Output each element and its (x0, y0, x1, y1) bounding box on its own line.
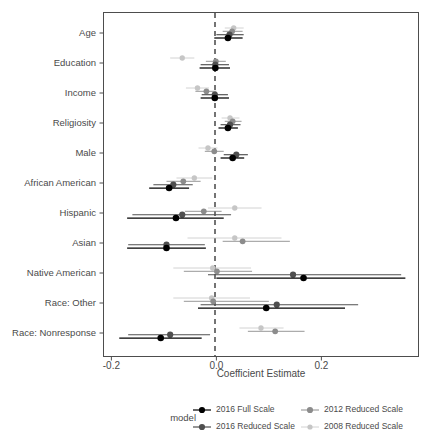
legend-item-label: 2016 Full Scale (216, 404, 275, 414)
legend-key-dot (199, 407, 205, 413)
y-axis-label: Asian (72, 237, 96, 248)
y-axis-label: Education (54, 57, 96, 68)
y-axis-category-labels: AgeEducationIncomeReligiosityMaleAfrican… (12, 27, 96, 338)
y-axis-label: Native American (27, 267, 96, 278)
y-axis-label: Male (75, 147, 96, 158)
estimate-point (214, 268, 220, 274)
estimate-point (167, 332, 173, 338)
x-axis-title: Coefficient Estimate (217, 368, 306, 379)
legend-key-dot (307, 424, 312, 429)
y-axis-label: African American (24, 177, 96, 188)
estimate-point (173, 215, 180, 222)
estimate-point (232, 205, 237, 210)
estimate-point (204, 88, 210, 94)
legend-item-label: 2012 Reduced Scale (324, 404, 403, 414)
estimate-point (225, 125, 232, 132)
estimate-point (240, 238, 246, 244)
coefficient-plot-figure: AgeEducationIncomeReligiosityMaleAfrican… (0, 0, 435, 437)
legend-item: 2016 Full Scale (193, 404, 275, 414)
estimate-point (166, 185, 173, 192)
y-axis-label: Race: Other (45, 297, 96, 308)
estimate-point (201, 208, 207, 214)
estimate-point (163, 245, 170, 252)
y-axis-label: Race: Nonresponse (12, 327, 96, 338)
y-axis-label: Hispanic (60, 207, 97, 218)
estimate-point (212, 95, 219, 102)
estimate-point (258, 325, 263, 330)
series-group (167, 28, 305, 334)
estimate-point (157, 335, 164, 342)
estimate-point (290, 272, 296, 278)
estimate-point (263, 305, 270, 312)
estimate-point (211, 148, 217, 154)
estimate-point (272, 328, 278, 334)
legend: model 2016 Full Scale2012 Reduced Scale2… (170, 404, 403, 431)
estimate-point (212, 65, 219, 72)
estimate-point (180, 55, 185, 60)
estimate-point (180, 178, 186, 184)
legend-item: 2016 Reduced Scale (193, 421, 295, 431)
estimate-point (300, 275, 307, 282)
coefficient-plot-svg: AgeEducationIncomeReligiosityMaleAfrican… (0, 0, 435, 437)
legend-item-label: 2016 Reduced Scale (216, 421, 295, 431)
estimate-point (229, 155, 236, 162)
estimate-point (205, 145, 210, 150)
x-axis-tick-label: 0.2 (314, 360, 328, 371)
series-group (170, 25, 283, 330)
estimate-point (195, 85, 200, 90)
estimate-point (225, 35, 232, 42)
y-axis-tick-marks (100, 33, 104, 333)
legend-key-dot (307, 407, 313, 413)
estimate-point (274, 302, 280, 308)
estimate-point (210, 298, 216, 304)
series-group (119, 35, 405, 342)
y-axis-label: Age (79, 27, 96, 38)
estimate-point (179, 212, 185, 218)
estimate-point (192, 175, 197, 180)
x-axis-tick-label: -0.2 (103, 360, 121, 371)
y-axis-label: Religiosity (53, 117, 97, 128)
legend-title: model (170, 412, 196, 423)
legend-item: 2012 Reduced Scale (301, 404, 403, 414)
estimate-point (232, 235, 237, 240)
legend-item-label: 2008 Reduced Scale (324, 421, 403, 431)
y-axis-label: Income (65, 87, 96, 98)
legend-item: 2008 Reduced Scale (301, 421, 403, 431)
legend-key-dot (199, 424, 205, 430)
data-series-layer (119, 25, 405, 341)
